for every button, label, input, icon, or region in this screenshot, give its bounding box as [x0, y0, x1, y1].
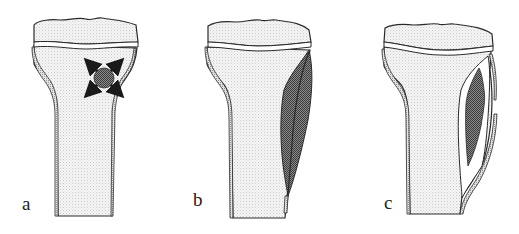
panel-a — [32, 18, 138, 216]
epiphysis — [208, 20, 311, 46]
panel-label-b: b — [193, 190, 203, 209]
bone-outline — [34, 45, 137, 216]
panel-label-a: a — [22, 194, 30, 213]
panel-c — [382, 24, 497, 214]
epiphysis — [34, 18, 138, 44]
bone-lesion-diagram — [0, 0, 519, 234]
cortex-right-distal — [284, 196, 288, 213]
panel-label-c: c — [384, 193, 392, 212]
panel-b — [205, 20, 312, 218]
